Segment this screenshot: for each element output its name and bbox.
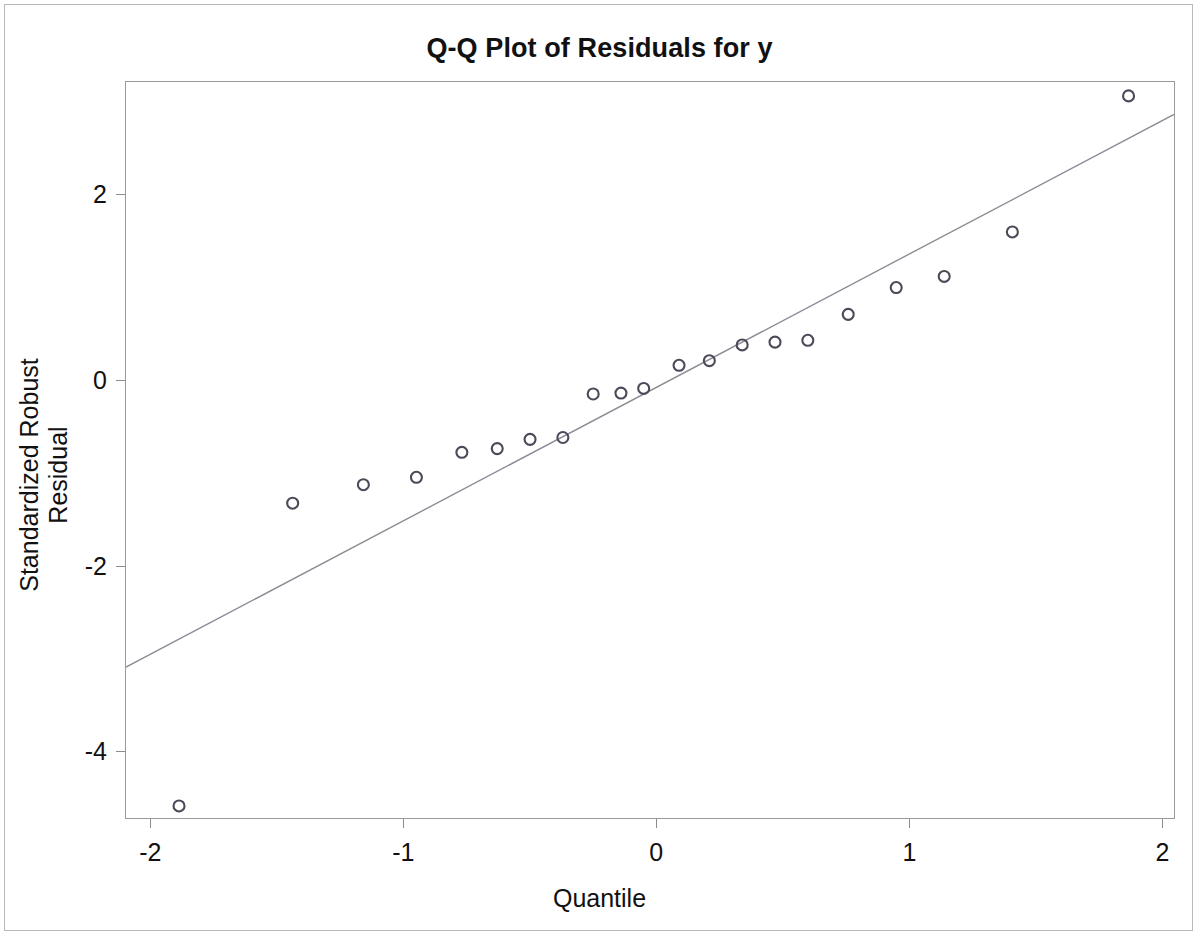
data-point [287,498,298,509]
data-point [411,472,422,483]
y-tick-mark [116,751,125,752]
data-point [557,432,568,443]
x-tick-label: -2 [139,838,161,867]
x-tick-mark [150,819,151,828]
data-point [638,383,649,394]
y-tick-mark [116,194,125,195]
data-point [588,389,599,400]
data-point [492,443,503,454]
x-tick-mark [403,819,404,828]
reference-line [126,114,1174,667]
plot-area [125,81,1175,819]
x-tick-label: 0 [649,838,663,867]
data-point [525,434,536,445]
x-tick-label: -1 [392,838,414,867]
x-tick-label: 2 [1155,838,1169,867]
x-tick-mark [656,819,657,828]
x-tick-mark [909,819,910,828]
data-point [802,335,813,346]
y-tick-label: -4 [17,737,107,766]
data-point [891,282,902,293]
reference-line-segment [126,114,1174,667]
y-axis-label: Standardized Robust Residual [15,310,73,640]
qq-plot-figure: Q-Q Plot of Residuals for y 20-2-4 -2-10… [0,0,1199,937]
x-tick-mark [1162,819,1163,828]
plot-canvas [126,82,1174,818]
data-point [174,800,185,811]
data-point [1123,90,1134,101]
data-points [174,90,1134,811]
data-point [358,479,369,490]
x-axis-label: Quantile [0,884,1199,913]
page-title: Q-Q Plot of Residuals for y [0,33,1199,64]
data-point [939,271,950,282]
data-point [1007,226,1018,237]
data-point [674,360,685,371]
y-tick-label: 2 [17,180,107,209]
x-tick-label: 1 [902,838,916,867]
data-point [456,447,467,458]
data-point [843,309,854,320]
data-point [770,337,781,348]
data-point [615,388,626,399]
data-point [704,355,715,366]
y-tick-mark [116,380,125,381]
y-tick-mark [116,566,125,567]
